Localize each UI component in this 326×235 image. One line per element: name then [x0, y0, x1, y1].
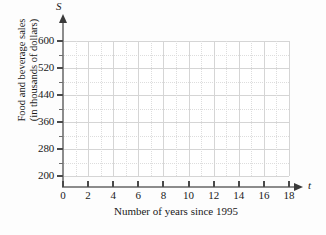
x-tick-mark: [62, 181, 64, 187]
y-tick-mark-minor: [59, 136, 63, 137]
gridline-vertical: [88, 41, 89, 176]
y-axis-arrow-icon: [59, 14, 67, 23]
gridline-vertical: [289, 41, 290, 176]
plot-area: [63, 41, 289, 176]
y-axis-variable-symbol: S: [56, 1, 62, 12]
y-tick-mark: [57, 94, 63, 96]
x-tick-mark: [162, 181, 164, 187]
y-tick-mark: [57, 40, 63, 42]
x-tick-mark: [238, 181, 240, 187]
y-tick-mark-minor: [59, 82, 63, 83]
gridline-vertical-minor: [226, 41, 227, 176]
x-tick-mark: [137, 181, 139, 187]
gridline-vertical: [214, 41, 215, 176]
x-axis-variable-symbol: t: [308, 180, 311, 191]
y-tick-mark: [57, 148, 63, 150]
chart-figure: S t 200280360440520600024681012141618 Fo…: [0, 0, 326, 235]
gridline-horizontal: [63, 176, 289, 177]
gridline-vertical-minor: [176, 41, 177, 176]
x-tick-mark: [263, 181, 265, 187]
x-tick-label: 18: [274, 190, 304, 201]
gridline-vertical: [239, 41, 240, 176]
gridline-vertical: [113, 41, 114, 176]
gridline-vertical: [189, 41, 190, 176]
y-axis-title-line-2: (in thousands of dollars): [28, 0, 40, 150]
gridline-vertical: [264, 41, 265, 176]
x-tick-mark: [87, 181, 89, 187]
y-tick-mark-minor: [59, 163, 63, 164]
x-tick-mark: [288, 181, 290, 187]
y-axis-title: Food and beverage sales (in thousands of…: [16, 0, 40, 150]
y-tick-mark: [57, 121, 63, 123]
gridline-vertical-minor: [76, 41, 77, 176]
y-tick-mark: [57, 67, 63, 69]
y-tick-mark-minor: [59, 55, 63, 56]
gridline-vertical-minor: [251, 41, 252, 176]
gridline-vertical-minor: [276, 41, 277, 176]
y-axis-title-line-1: Food and beverage sales: [16, 0, 28, 150]
y-tick-label: 200: [14, 170, 54, 181]
gridline-vertical: [138, 41, 139, 176]
x-tick-mark: [112, 181, 114, 187]
x-tick-mark: [213, 181, 215, 187]
x-axis-title: Number of years since 1995: [63, 205, 289, 217]
x-axis-line: [62, 186, 295, 188]
gridline-vertical-minor: [151, 41, 152, 176]
y-tick-mark: [57, 175, 63, 177]
gridline-vertical-minor: [101, 41, 102, 176]
gridline-vertical-minor: [201, 41, 202, 176]
gridline-vertical-minor: [126, 41, 127, 176]
y-tick-mark-minor: [59, 109, 63, 110]
gridline-vertical: [163, 41, 164, 176]
x-tick-mark: [188, 181, 190, 187]
